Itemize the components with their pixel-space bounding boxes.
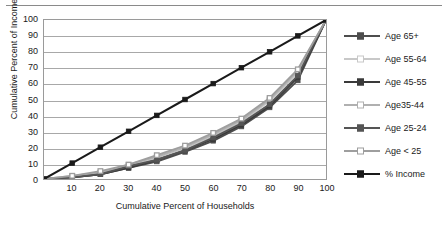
x-axis-tick-labels: 102030405060708090100 bbox=[43, 184, 327, 198]
legend-swatch-age-65 bbox=[344, 30, 380, 41]
legend-label: Age35-44 bbox=[385, 100, 424, 110]
x-tick-20: 20 bbox=[95, 184, 105, 193]
legend-label: Age < 25 bbox=[385, 146, 421, 156]
y-axis-tick-labels: 0102030405060708090100 bbox=[0, 19, 41, 180]
legend-item-age-25-24[interactable]: Age 25-24 bbox=[344, 116, 448, 139]
data-point-marker bbox=[183, 97, 188, 102]
y-tick-0: 0 bbox=[33, 176, 38, 185]
x-tick-40: 40 bbox=[152, 184, 162, 193]
data-point-marker bbox=[126, 162, 131, 167]
y-tick-10: 10 bbox=[28, 159, 38, 168]
x-tick-90: 90 bbox=[294, 184, 304, 193]
y-tick-50: 50 bbox=[28, 95, 38, 104]
data-point-marker bbox=[70, 174, 75, 179]
data-point-marker bbox=[267, 50, 272, 55]
x-tick-70: 70 bbox=[237, 184, 247, 193]
data-point-marker bbox=[239, 116, 244, 121]
chart-legend: Age 65+Age 55-64Age 45-55Age35-44Age 25-… bbox=[344, 24, 448, 185]
data-point-marker bbox=[211, 135, 216, 140]
legend-marker bbox=[357, 101, 364, 108]
data-point-marker bbox=[98, 169, 103, 174]
data-point-marker bbox=[126, 129, 131, 134]
y-tick-90: 90 bbox=[28, 31, 38, 40]
data-point-marker bbox=[239, 65, 244, 70]
legend-label: Age 65+ bbox=[385, 31, 419, 41]
data-point-marker bbox=[267, 96, 272, 101]
data-point-marker bbox=[324, 20, 326, 22]
x-axis-title: Cumulative Percent of Households bbox=[43, 201, 327, 211]
y-tick-80: 80 bbox=[28, 47, 38, 56]
legend-marker bbox=[357, 147, 364, 154]
series-lines-layer bbox=[44, 20, 326, 179]
plot-area bbox=[43, 19, 327, 180]
y-tick-20: 20 bbox=[28, 143, 38, 152]
legend-swatch-income bbox=[344, 168, 380, 179]
legend-swatch-age-25-24 bbox=[344, 122, 380, 133]
legend-label: % Income bbox=[385, 169, 425, 179]
y-tick-40: 40 bbox=[28, 111, 38, 120]
data-point-marker bbox=[44, 177, 46, 179]
x-tick-100: 100 bbox=[319, 184, 334, 193]
y-tick-60: 60 bbox=[28, 79, 38, 88]
x-tick-50: 50 bbox=[180, 184, 190, 193]
legend-item-income[interactable]: % Income bbox=[344, 162, 448, 185]
data-point-marker bbox=[155, 153, 160, 158]
legend-marker bbox=[357, 78, 364, 85]
data-point-marker bbox=[155, 158, 160, 163]
x-tick-80: 80 bbox=[265, 184, 275, 193]
series-income bbox=[44, 20, 326, 179]
legend-swatch-age35-44 bbox=[344, 99, 380, 110]
legend-marker bbox=[357, 124, 364, 131]
legend-marker bbox=[357, 55, 364, 62]
legend-label: Age 45-55 bbox=[385, 77, 427, 87]
x-tick-30: 30 bbox=[123, 184, 133, 193]
x-tick-10: 10 bbox=[66, 184, 76, 193]
y-tick-30: 30 bbox=[28, 127, 38, 136]
x-tick-60: 60 bbox=[208, 184, 218, 193]
legend-label: Age 25-24 bbox=[385, 123, 427, 133]
legend-marker bbox=[357, 170, 364, 177]
legend-marker bbox=[357, 32, 364, 39]
legend-swatch-age-55-64 bbox=[344, 53, 380, 64]
legend-item-age-25[interactable]: Age < 25 bbox=[344, 139, 448, 162]
data-point-marker bbox=[211, 81, 216, 86]
data-point-marker bbox=[183, 143, 188, 148]
data-point-marker bbox=[70, 161, 75, 166]
legend-swatch-age-25 bbox=[344, 145, 380, 156]
data-point-marker bbox=[267, 102, 272, 107]
data-point-marker bbox=[211, 131, 216, 136]
data-point-marker bbox=[296, 67, 301, 72]
y-tick-70: 70 bbox=[28, 63, 38, 72]
data-point-marker bbox=[296, 73, 301, 78]
legend-item-age-65[interactable]: Age 65+ bbox=[344, 24, 448, 47]
legend-swatch-age-45-55 bbox=[344, 76, 380, 87]
data-point-marker bbox=[239, 121, 244, 126]
legend-label: Age 55-64 bbox=[385, 54, 427, 64]
lorenz-curve-chart: Cumulative Percent of Income 01020304050… bbox=[0, 0, 448, 233]
y-tick-100: 100 bbox=[23, 15, 38, 24]
legend-item-age35-44[interactable]: Age35-44 bbox=[344, 93, 448, 116]
data-point-marker bbox=[98, 145, 103, 150]
legend-item-age-55-64[interactable]: Age 55-64 bbox=[344, 47, 448, 70]
data-point-marker bbox=[183, 148, 188, 153]
data-point-marker bbox=[296, 34, 301, 39]
data-point-marker bbox=[155, 113, 160, 118]
legend-item-age-45-55[interactable]: Age 45-55 bbox=[344, 70, 448, 93]
